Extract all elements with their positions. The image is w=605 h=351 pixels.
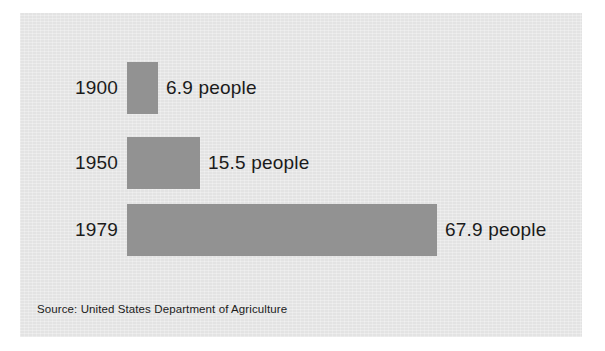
chart-panel: 1900 6.9 people 1950 15.5 people 1979 67… (20, 13, 582, 337)
bar-segment (127, 204, 437, 256)
bar-category-label: 1950 (20, 152, 118, 174)
bar-category-label: 1979 (20, 219, 118, 241)
bar-value-label: 6.9 people (166, 77, 257, 99)
bar-category-label: 1900 (20, 77, 118, 99)
bar-value-label: 15.5 people (208, 152, 310, 174)
source-note: Source: United States Department of Agri… (37, 303, 287, 315)
bar-value-label: 67.9 people (445, 219, 547, 241)
bar-segment (127, 62, 158, 114)
bar-segment (127, 137, 200, 189)
